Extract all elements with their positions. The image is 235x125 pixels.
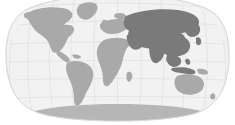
world-map-graphic <box>0 0 235 125</box>
world-map-container: World Map <box>0 0 235 125</box>
